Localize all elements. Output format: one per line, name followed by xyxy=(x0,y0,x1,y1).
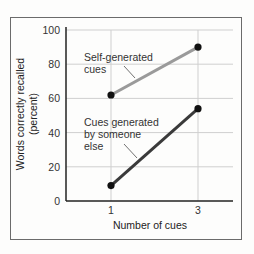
y-tick-label: 20 xyxy=(48,161,60,173)
y-tick-label: 80 xyxy=(48,58,60,70)
data-point xyxy=(194,105,201,112)
y-axis-label-line2: (percent) xyxy=(27,93,39,135)
y-axis-label-line1: Words correctly recalled xyxy=(14,58,26,171)
data-point xyxy=(107,182,114,189)
x-tick-label: 1 xyxy=(108,204,114,216)
x-tick-label: 3 xyxy=(195,204,201,216)
annotation-someone-else: by someone xyxy=(84,128,141,140)
y-tick-label: 60 xyxy=(48,92,60,104)
y-tick-label: 100 xyxy=(42,24,60,36)
y-tick-label: 0 xyxy=(54,195,60,207)
annotation-self-generated: Self-generated xyxy=(84,51,153,63)
annotation-someone-else: else xyxy=(84,140,103,152)
y-tick-label: 40 xyxy=(48,127,60,139)
annotation-self-generated: cues xyxy=(84,63,106,75)
annotation-someone-else: Cues generated xyxy=(84,116,159,128)
data-point xyxy=(194,44,201,51)
data-point xyxy=(107,91,114,98)
chart: 02040608010013 Self-generatedcuesCues ge… xyxy=(0,0,254,254)
x-axis-label: Number of cues xyxy=(113,219,187,231)
